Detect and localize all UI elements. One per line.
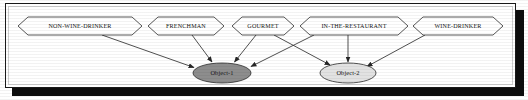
attribute-node-in-the-restaurant[interactable]: IN-THE-RESTAURANT <box>300 17 408 35</box>
attribute-label: IN-THE-RESTAURANT <box>321 23 386 29</box>
attribute-node-frenchman[interactable]: FRENCHMAN <box>148 17 224 35</box>
edge-frenchman-to-object-1 <box>192 35 212 62</box>
edge-gourmet-to-object-2 <box>274 35 330 65</box>
attribute-label: GOURMET <box>247 23 278 29</box>
edge-non-wine-drinker-to-object-1 <box>102 35 194 68</box>
object-node-object-1[interactable]: Object-1 <box>193 63 251 83</box>
figure-frame: NON-WINE-DRINKER FRENCHMAN GOURMET IN-TH… <box>5 3 516 88</box>
edge-wine-drinker-to-object-2 <box>367 35 425 67</box>
attribute-label: NON-WINE-DRINKER <box>48 23 112 29</box>
edge-layer <box>102 35 425 68</box>
edge-gourmet-to-object-1 <box>235 35 257 62</box>
attribute-node-gourmet[interactable]: GOURMET <box>232 17 294 35</box>
attribute-node-non-wine-drinker[interactable]: NON-WINE-DRINKER <box>18 17 142 35</box>
figure-stage: NON-WINE-DRINKER FRENCHMAN GOURMET IN-TH… <box>0 0 528 100</box>
attribute-label: FRENCHMAN <box>166 23 206 29</box>
object-label: Object-1 <box>210 69 233 76</box>
concept-graph-diagram: NON-WINE-DRINKER FRENCHMAN GOURMET IN-TH… <box>6 4 517 89</box>
attribute-label: WINE-DRINKER <box>434 23 482 29</box>
object-node-object-2[interactable]: Object-2 <box>320 63 376 83</box>
attribute-node-wine-drinker[interactable]: WINE-DRINKER <box>413 17 503 35</box>
object-label: Object-2 <box>336 69 359 76</box>
